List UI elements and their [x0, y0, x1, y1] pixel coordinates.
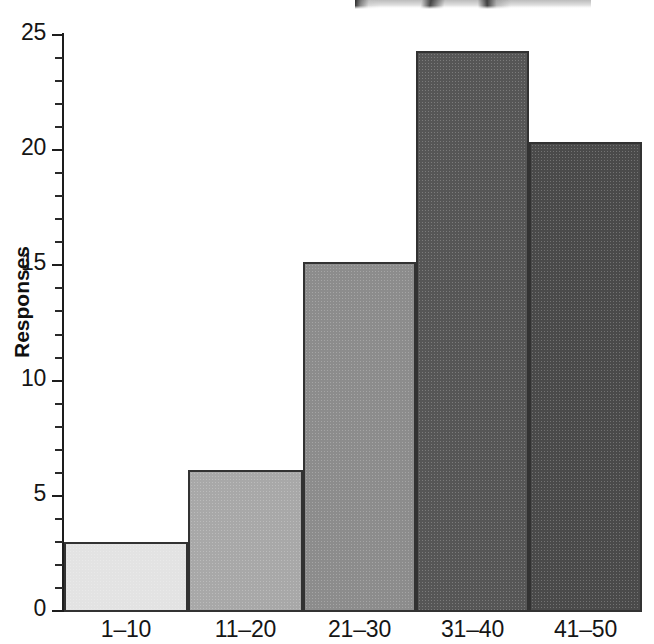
y-minor-tick [55, 587, 63, 589]
bar-texture [418, 53, 527, 610]
bar-texture [66, 544, 186, 610]
bar-texture [305, 264, 414, 610]
plot-area: Responses 25 20 15 10 5 0 [0, 0, 654, 644]
y-minor-tick [55, 195, 63, 197]
y-minor-tick [55, 241, 63, 243]
y-minor-tick [55, 472, 63, 474]
y-minor-tick [55, 449, 63, 451]
y-tick-label-10: 10 [2, 365, 46, 392]
x-label-1-10: 1–10 [64, 616, 188, 643]
y-minor-tick [55, 518, 63, 520]
y-tick-label-15: 15 [2, 249, 46, 276]
y-axis-line [62, 33, 64, 612]
y-minor-tick [55, 426, 63, 428]
y-tick-label-25: 25 [2, 19, 46, 46]
y-minor-tick [55, 334, 63, 336]
y-minor-tick [55, 403, 63, 405]
x-label-31-40: 31–40 [416, 616, 529, 643]
y-minor-tick [55, 310, 63, 312]
y-minor-tick [55, 541, 63, 543]
y-tick-label-20: 20 [2, 134, 46, 161]
y-minor-tick [55, 172, 63, 174]
bar-1-10[interactable] [64, 542, 188, 612]
y-minor-tick [55, 57, 63, 59]
bar-21-30[interactable] [303, 262, 416, 612]
bar-11-20[interactable] [188, 470, 303, 612]
bar-texture [190, 472, 301, 610]
y-minor-tick [55, 287, 63, 289]
bar-31-40[interactable] [416, 51, 529, 612]
y-tick-label-5: 5 [2, 480, 46, 507]
y-minor-tick [55, 218, 63, 220]
x-label-11-20: 11–20 [188, 616, 303, 643]
bar-texture [531, 144, 640, 610]
y-minor-tick [55, 103, 63, 105]
x-label-41-50: 41–50 [529, 616, 642, 643]
bar-41-50[interactable] [529, 142, 642, 612]
chart-screenshot: Responses 25 20 15 10 5 0 [0, 0, 654, 644]
x-label-21-30: 21–30 [303, 616, 416, 643]
y-tick-label-0: 0 [2, 595, 46, 622]
y-minor-tick [55, 357, 63, 359]
y-minor-tick [55, 126, 63, 128]
y-minor-tick [55, 80, 63, 82]
y-minor-tick [55, 564, 63, 566]
